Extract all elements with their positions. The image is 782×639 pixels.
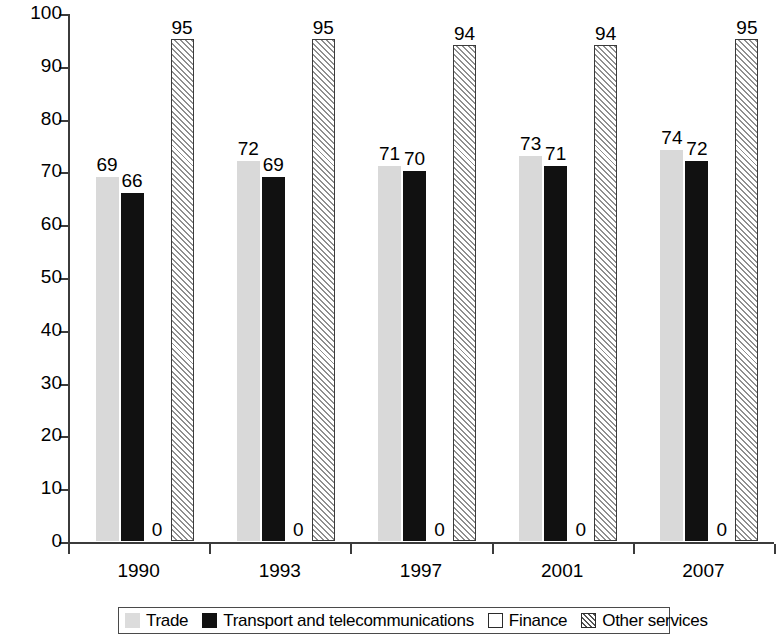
y-axis-tick-label: 100	[16, 3, 62, 23]
bar-transport: 69	[262, 177, 285, 541]
bar-value-label: 0	[434, 519, 445, 540]
bar-value-label: 74	[661, 127, 682, 148]
bar-value-label: 72	[238, 138, 259, 159]
bar-chart: % of value added 0102030405060708090100 …	[0, 0, 782, 639]
bar-group: 7472095	[633, 13, 774, 541]
bar-value-label: 95	[172, 17, 193, 38]
legend-label-trade: Trade	[146, 611, 188, 630]
bar-trade: 74	[660, 150, 683, 541]
bar-value-label: 95	[313, 17, 334, 38]
bar-value-label: 69	[263, 154, 284, 175]
legend-swatch-transport-icon	[202, 613, 217, 628]
bar-trade: 71	[378, 166, 401, 541]
y-axis-tick-label: 80	[16, 109, 62, 129]
bar-other-services: 95	[171, 39, 194, 541]
y-axis-tick-label: 0	[16, 531, 62, 551]
bar-transport: 70	[403, 171, 426, 541]
bar-trade: 72	[237, 161, 260, 541]
bar-value-label: 0	[717, 519, 728, 540]
legend-item-trade: Trade	[125, 611, 188, 630]
bar-group: 7371094	[492, 13, 633, 541]
chart-legend: Trade Transport and telecommunications F…	[118, 607, 670, 634]
bar-value-label: 0	[152, 519, 163, 540]
bar-value-label: 69	[97, 154, 118, 175]
y-axis-tick-label: 70	[16, 161, 62, 181]
legend-item-other-services: Other services	[581, 611, 707, 630]
bar-value-label: 94	[595, 23, 616, 44]
bar-other-services: 95	[312, 39, 335, 541]
x-axis-category-label: 1997	[350, 560, 491, 582]
y-axis-tick-label: 20	[16, 425, 62, 445]
y-axis-tick-label: 10	[16, 478, 62, 498]
legend-item-transport: Transport and telecommunications	[202, 611, 474, 630]
bar-transport: 72	[685, 161, 708, 541]
legend-swatch-other-services-icon	[581, 613, 596, 628]
bar-group: 7269095	[209, 13, 350, 541]
y-axis-tick-label: 90	[16, 56, 62, 76]
plot-area: 0102030405060708090100 69660957269095717…	[68, 14, 774, 543]
y-axis-tick-label: 60	[16, 214, 62, 234]
bar-trade: 69	[96, 177, 119, 541]
bar-value-label: 70	[404, 148, 425, 169]
y-axis-tick-label: 50	[16, 267, 62, 287]
bar-group: 7170094	[350, 13, 491, 541]
x-axis-line	[68, 542, 774, 544]
x-axis-tick-mark	[774, 544, 776, 554]
x-axis-tick-mark	[209, 544, 211, 554]
bar-transport: 71	[544, 166, 567, 541]
bar-other-services: 95	[735, 39, 758, 541]
x-axis-category-label: 2001	[492, 560, 633, 582]
legend-label-transport: Transport and telecommunications	[223, 611, 474, 630]
legend-label-other-services: Other services	[602, 611, 707, 630]
legend-item-finance: Finance	[488, 611, 567, 630]
bar-value-label: 94	[454, 23, 475, 44]
bar-group: 6966095	[68, 13, 209, 541]
x-axis-tick-mark	[68, 544, 70, 554]
x-axis-tick-mark	[350, 544, 352, 554]
bar-value-label: 71	[545, 143, 566, 164]
legend-swatch-finance-icon	[488, 613, 503, 628]
bar-transport: 66	[121, 193, 144, 541]
bar-value-label: 0	[293, 519, 304, 540]
x-axis-tick-mark	[633, 544, 635, 554]
x-axis-category-label: 1993	[209, 560, 350, 582]
legend-swatch-trade-icon	[125, 613, 140, 628]
x-axis-category-label: 2007	[633, 560, 774, 582]
bar-value-label: 66	[122, 170, 143, 191]
bar-value-label: 72	[686, 138, 707, 159]
bar-value-label: 95	[736, 17, 757, 38]
y-axis-tick-label: 40	[16, 320, 62, 340]
bar-other-services: 94	[453, 45, 476, 541]
bar-other-services: 94	[594, 45, 617, 541]
y-axis-tick-label: 30	[16, 373, 62, 393]
x-axis-category-label: 1990	[68, 560, 209, 582]
bar-value-label: 73	[520, 133, 541, 154]
bar-trade: 73	[519, 156, 542, 541]
legend-label-finance: Finance	[509, 611, 567, 630]
x-axis-tick-mark	[492, 544, 494, 554]
bar-value-label: 71	[379, 143, 400, 164]
bar-value-label: 0	[575, 519, 586, 540]
